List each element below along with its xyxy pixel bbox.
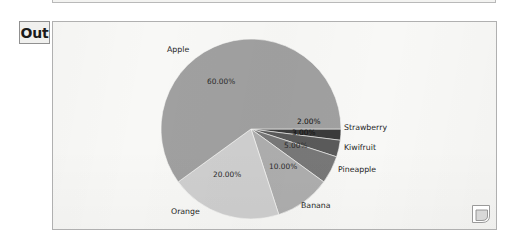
pie-value-label-pineapple: 5.00% (284, 142, 307, 149)
previous-cell-frame-edge (52, 0, 496, 3)
pie-category-label-pineapple: Pineapple (338, 166, 376, 174)
pie-chart: 2.00%Strawberry3.00%Kiwifruit5.00%Pineap… (53, 22, 496, 229)
pie-value-label-orange: 20.00% (213, 171, 241, 178)
out-cell-label-text: Out (21, 26, 49, 40)
pie-value-label-banana: 10.00% (269, 163, 297, 170)
pie-value-label-apple: 60.00% (207, 78, 235, 85)
out-cell-label[interactable]: Out (19, 21, 50, 44)
pie-value-label-strawberry: 2.00% (297, 118, 320, 125)
pie-category-label-orange: Orange (171, 208, 200, 216)
pie-category-label-kiwifruit: Kiwifruit (344, 144, 376, 152)
pie-category-label-apple: Apple (167, 46, 189, 54)
cell-bracket-page-curl-icon[interactable] (471, 204, 491, 224)
pie-chart-svg (53, 22, 497, 230)
output-cell[interactable]: 2.00%Strawberry3.00%Kiwifruit5.00%Pineap… (52, 21, 497, 230)
pie-value-label-kiwifruit: 3.00% (292, 129, 315, 136)
pie-category-label-strawberry: Strawberry (344, 124, 387, 132)
pie-category-label-banana: Banana (301, 202, 331, 210)
